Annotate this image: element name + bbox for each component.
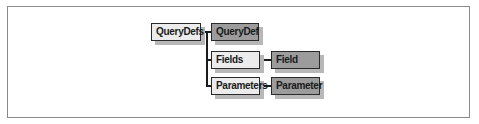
node-parameters: Parameters: [211, 77, 260, 95]
node-parameter: Parameter: [271, 77, 320, 95]
node-querydef: QueryDef: [211, 23, 259, 41]
node-querydefs: QueryDefs: [151, 23, 201, 41]
node-fields: Fields: [211, 51, 260, 69]
node-field: Field: [271, 51, 320, 69]
connector-fields-field: [260, 59, 271, 61]
